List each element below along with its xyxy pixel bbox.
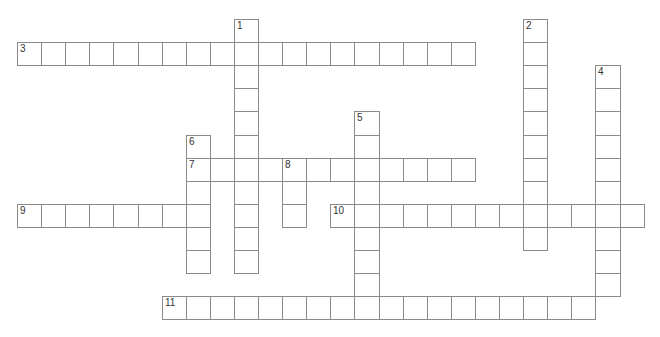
crossword-cell[interactable] xyxy=(595,204,621,228)
crossword-cell[interactable] xyxy=(306,158,331,182)
crossword-cell[interactable] xyxy=(89,42,114,66)
crossword-cell[interactable] xyxy=(475,296,500,320)
crossword-cell[interactable] xyxy=(234,135,259,159)
crossword-cell[interactable] xyxy=(186,296,211,320)
crossword-cell[interactable]: 4 xyxy=(595,65,621,89)
crossword-cell[interactable] xyxy=(451,158,476,182)
crossword-cell[interactable] xyxy=(186,250,211,274)
crossword-cell[interactable] xyxy=(258,158,283,182)
crossword-cell[interactable] xyxy=(89,204,114,228)
crossword-cell[interactable] xyxy=(282,181,307,205)
crossword-cell[interactable] xyxy=(210,296,235,320)
crossword-cell[interactable] xyxy=(427,296,452,320)
crossword-cell[interactable] xyxy=(65,204,90,228)
crossword-cell[interactable] xyxy=(620,204,645,228)
crossword-cell[interactable] xyxy=(475,204,500,228)
crossword-cell[interactable] xyxy=(451,296,476,320)
crossword-cell[interactable] xyxy=(234,296,259,320)
crossword-cell[interactable] xyxy=(403,296,428,320)
crossword-cell[interactable] xyxy=(595,135,621,159)
crossword-cell[interactable] xyxy=(354,158,380,182)
crossword-cell[interactable] xyxy=(234,158,259,182)
crossword-cell[interactable] xyxy=(403,158,428,182)
crossword-cell[interactable]: 9 xyxy=(17,204,42,228)
crossword-cell[interactable] xyxy=(258,296,283,320)
crossword-cell[interactable] xyxy=(427,158,452,182)
crossword-cell[interactable]: 5 xyxy=(354,111,380,136)
crossword-cell[interactable] xyxy=(354,227,380,251)
crossword-cell[interactable] xyxy=(234,181,259,205)
crossword-cell[interactable] xyxy=(451,204,476,228)
crossword-cell[interactable]: 10 xyxy=(330,204,355,228)
crossword-cell[interactable] xyxy=(354,42,380,66)
crossword-cell[interactable] xyxy=(571,296,596,320)
crossword-cell[interactable]: 11 xyxy=(162,296,187,320)
crossword-cell[interactable] xyxy=(234,42,259,66)
crossword-cell[interactable] xyxy=(306,42,331,66)
crossword-cell[interactable] xyxy=(234,65,259,89)
crossword-cell[interactable]: 3 xyxy=(17,42,42,66)
crossword-cell[interactable] xyxy=(547,204,572,228)
crossword-cell[interactable] xyxy=(41,204,66,228)
crossword-cell[interactable] xyxy=(65,42,90,66)
crossword-cell[interactable] xyxy=(186,42,211,66)
crossword-cell[interactable] xyxy=(595,227,621,251)
crossword-cell[interactable] xyxy=(595,158,621,182)
crossword-cell[interactable] xyxy=(403,204,428,228)
crossword-cell[interactable]: 8 xyxy=(282,158,307,182)
crossword-cell[interactable] xyxy=(210,42,235,66)
crossword-cell[interactable] xyxy=(379,42,404,66)
crossword-cell[interactable] xyxy=(330,42,355,66)
crossword-cell[interactable] xyxy=(354,296,380,320)
crossword-cell[interactable] xyxy=(523,135,548,159)
crossword-cell[interactable] xyxy=(523,204,548,228)
crossword-cell[interactable] xyxy=(330,158,355,182)
crossword-cell[interactable] xyxy=(427,204,452,228)
crossword-cell[interactable]: 6 xyxy=(186,135,211,159)
crossword-cell[interactable] xyxy=(523,296,548,320)
crossword-cell[interactable] xyxy=(595,88,621,112)
crossword-cell[interactable] xyxy=(427,42,452,66)
crossword-cell[interactable] xyxy=(547,296,572,320)
crossword-cell[interactable] xyxy=(113,42,139,66)
crossword-cell[interactable] xyxy=(41,42,66,66)
crossword-cell[interactable] xyxy=(354,273,380,297)
crossword-cell[interactable] xyxy=(162,204,187,228)
crossword-cell[interactable] xyxy=(595,273,621,297)
crossword-cell[interactable] xyxy=(186,227,211,251)
crossword-cell[interactable] xyxy=(234,111,259,136)
crossword-cell[interactable] xyxy=(499,296,524,320)
crossword-cell[interactable] xyxy=(210,158,235,182)
crossword-cell[interactable] xyxy=(162,42,187,66)
crossword-cell[interactable] xyxy=(282,296,307,320)
crossword-cell[interactable] xyxy=(595,111,621,136)
crossword-cell[interactable] xyxy=(595,250,621,274)
crossword-cell[interactable] xyxy=(113,204,139,228)
crossword-cell[interactable] xyxy=(354,181,380,205)
crossword-cell[interactable] xyxy=(354,135,380,159)
crossword-cell[interactable] xyxy=(186,204,211,228)
crossword-cell[interactable] xyxy=(523,181,548,205)
crossword-cell[interactable] xyxy=(379,296,404,320)
crossword-cell[interactable] xyxy=(354,204,380,228)
crossword-cell[interactable] xyxy=(451,42,476,66)
crossword-cell[interactable] xyxy=(186,181,211,205)
crossword-cell[interactable] xyxy=(523,111,548,136)
crossword-cell[interactable] xyxy=(523,65,548,89)
crossword-cell[interactable] xyxy=(282,204,307,228)
crossword-cell[interactable] xyxy=(234,250,259,274)
crossword-cell[interactable] xyxy=(595,181,621,205)
crossword-cell[interactable] xyxy=(523,88,548,112)
crossword-cell[interactable] xyxy=(523,158,548,182)
crossword-cell[interactable] xyxy=(379,204,404,228)
crossword-cell[interactable] xyxy=(571,204,596,228)
crossword-cell[interactable] xyxy=(330,296,355,320)
crossword-cell[interactable] xyxy=(523,42,548,66)
crossword-cell[interactable] xyxy=(234,227,259,251)
crossword-cell[interactable] xyxy=(234,88,259,112)
crossword-cell[interactable] xyxy=(403,42,428,66)
crossword-cell[interactable] xyxy=(234,204,259,228)
crossword-cell[interactable]: 7 xyxy=(186,158,211,182)
crossword-cell[interactable] xyxy=(138,204,163,228)
crossword-cell[interactable] xyxy=(379,158,404,182)
